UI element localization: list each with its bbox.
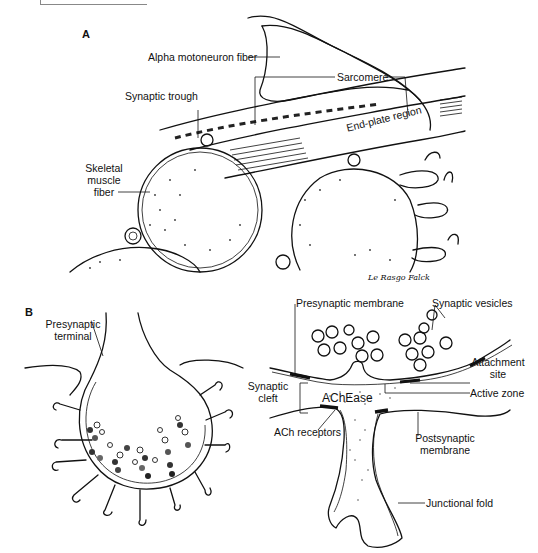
label-cleft-line1: Synaptic [243,380,293,392]
label-synaptic-cleft: Synaptic cleft [243,380,293,404]
label-ach-receptors: ACh receptors [274,426,341,438]
label-postsyn-line1: Postsynaptic [410,432,480,444]
label-presynaptic-membrane: Presynaptic membrane [296,297,404,309]
label-attachment-line1: Attachment [467,356,529,368]
label-postsyn-line2: membrane [410,444,480,456]
label-attachment-site: Attachment site [467,356,529,380]
panel-label-b: B [25,306,33,318]
panel-b-illustration [0,0,538,553]
label-cleft-line2: cleft [243,392,293,404]
label-synaptic-vesicles: Synaptic vesicles [432,297,513,309]
label-junctional-fold: Junctional fold [426,497,493,509]
label-presynaptic-terminal-line1: Presynaptic [42,318,104,330]
label-postsynaptic-membrane: Postsynaptic membrane [410,432,480,456]
label-active-zone: Active zone [470,387,524,399]
label-presynaptic-terminal: Presynaptic terminal [42,318,104,342]
figure-canvas: A Alpha motoneuron fiber Sarcomere Synap… [0,0,538,553]
label-presynaptic-terminal-line2: terminal [42,330,104,342]
label-attachment-line2: site [467,368,529,380]
label-achease: AChEase [322,392,373,404]
